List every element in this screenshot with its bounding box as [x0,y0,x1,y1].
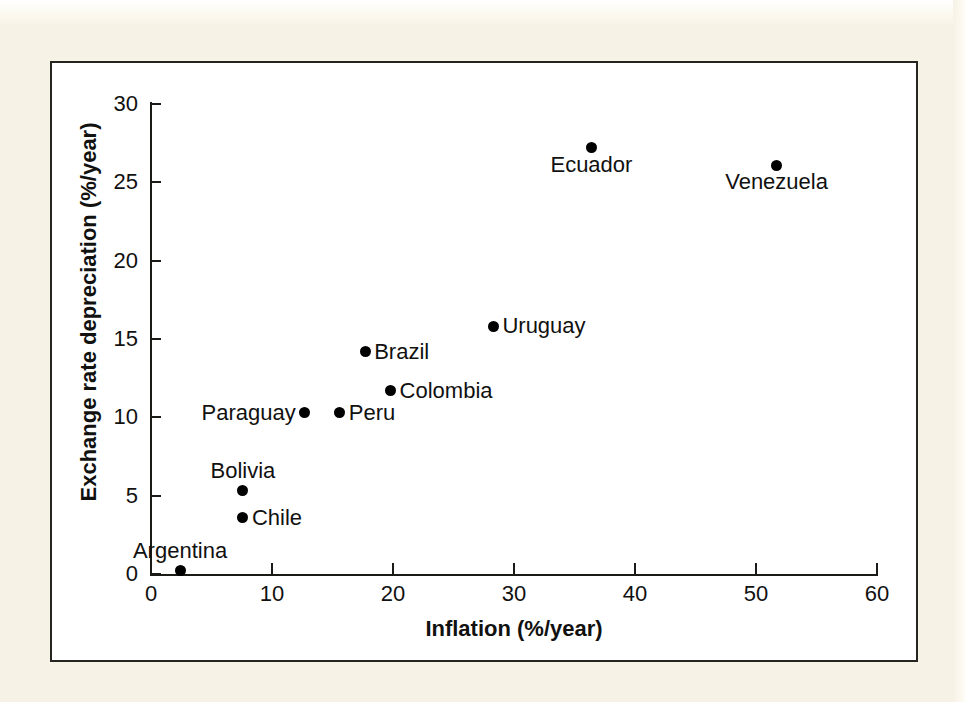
data-point-label: Chile [252,505,302,531]
y-tick-label: 0 [78,561,138,587]
y-tick [150,338,161,340]
x-tick-label: 40 [623,581,647,607]
x-tick-label: 60 [865,581,889,607]
data-point[interactable] [237,512,248,523]
x-tick [392,563,394,574]
figure-frame: 051015202530 0102030405060 ArgentinaChil… [50,61,918,662]
scatter-plot: 051015202530 0102030405060 ArgentinaChil… [52,63,920,664]
page-right-highlight [953,0,967,702]
data-point[interactable] [488,321,499,332]
y-axis-title: Exchange rate depreciation (%/year) [76,72,102,552]
y-tick [150,181,161,183]
y-tick [150,260,161,262]
data-point[interactable] [360,346,371,357]
data-point-label: Colombia [400,378,493,404]
data-point-label: Uruguay [502,313,585,339]
data-point-label: Paraguay [201,400,295,426]
page-top-highlight [0,0,967,26]
x-tick [876,563,878,574]
data-point[interactable] [299,407,310,418]
x-tick [634,563,636,574]
data-point[interactable] [385,385,396,396]
data-point-label: Argentina [133,538,227,564]
data-point-label: Brazil [374,339,429,365]
x-tick-label: 30 [502,581,526,607]
x-tick [271,563,273,574]
x-tick [755,563,757,574]
x-tick-label: 10 [260,581,284,607]
data-point-label: Peru [349,400,395,426]
data-point[interactable] [334,407,345,418]
y-tick [150,103,161,105]
x-tick-label: 20 [381,581,405,607]
data-point-label: Bolivia [211,458,276,484]
y-tick [150,416,161,418]
data-point-label: Ecuador [550,152,632,178]
x-tick-label: 0 [145,581,157,607]
x-axis-line [150,574,878,576]
y-tick [150,573,161,575]
x-axis-title: Inflation (%/year) [150,616,878,642]
data-point[interactable] [237,485,248,496]
x-tick [513,563,515,574]
data-point[interactable] [175,565,186,576]
x-tick-label: 50 [744,581,768,607]
y-tick [150,495,161,497]
data-point-label: Venezuela [725,169,828,195]
